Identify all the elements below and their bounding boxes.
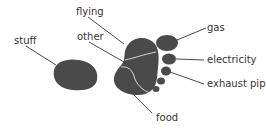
- label-gas: gas: [207, 22, 225, 34]
- exhaust-leader: [170, 72, 204, 84]
- other-leader: [89, 42, 124, 62]
- gas-leader: [177, 28, 206, 40]
- toe-4: [157, 78, 165, 85]
- footprint-diagram: [0, 0, 266, 136]
- label-electricity: electricity: [207, 54, 257, 66]
- food-leader: [131, 92, 152, 113]
- toe-exhaust: [161, 67, 171, 76]
- label-flying: flying: [76, 6, 104, 18]
- toe-electricity: [162, 54, 176, 65]
- stuff-leader: [26, 46, 56, 65]
- stuff-blob: [54, 59, 98, 90]
- label-food: food: [156, 112, 178, 124]
- label-exhaust-pipe: exhaust pipe: [207, 78, 266, 90]
- footprint-sole: [114, 38, 159, 95]
- toe-5: [153, 86, 160, 92]
- label-other: other: [77, 31, 104, 43]
- label-stuff: stuff: [14, 35, 36, 47]
- electricity-leader: [176, 59, 204, 60]
- toe-gas: [156, 35, 178, 51]
